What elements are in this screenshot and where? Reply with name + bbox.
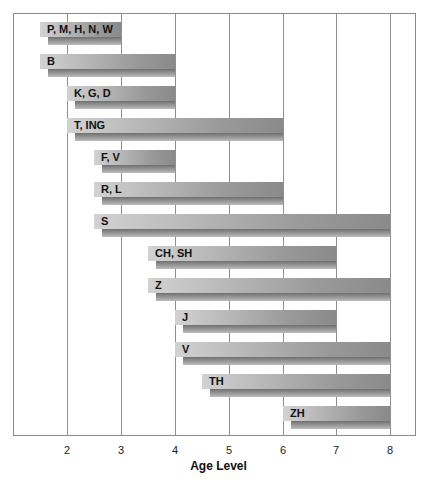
bar-label: T, ING bbox=[74, 118, 105, 133]
bar-label: F, V bbox=[101, 150, 120, 165]
x-tick-label: 3 bbox=[111, 444, 131, 456]
range-bar bbox=[94, 182, 283, 197]
range-bar bbox=[175, 342, 390, 357]
bar-shadow bbox=[291, 421, 390, 429]
bar-shadow bbox=[183, 325, 336, 333]
bar-shadow bbox=[183, 357, 390, 365]
x-axis-label: Age Level bbox=[0, 459, 427, 473]
x-tick-label: 5 bbox=[219, 444, 239, 456]
x-tick-label: 4 bbox=[165, 444, 185, 456]
range-bar bbox=[94, 214, 390, 229]
range-bar bbox=[175, 310, 336, 325]
bar-label: ZH bbox=[290, 406, 305, 421]
bar-label: Z bbox=[155, 278, 162, 293]
bar-label: J bbox=[182, 310, 188, 325]
bar-label: B bbox=[47, 54, 55, 69]
x-tick-label: 6 bbox=[273, 444, 293, 456]
bar-label: TH bbox=[209, 374, 224, 389]
bar-label: P, M, H, N, W bbox=[47, 22, 113, 37]
bar-shadow bbox=[75, 101, 175, 109]
bar-shadow bbox=[48, 69, 175, 77]
bar-shadow bbox=[210, 389, 390, 397]
x-tick-label: 2 bbox=[57, 444, 77, 456]
bar-label: K, G, D bbox=[74, 86, 111, 101]
bar-label: R, L bbox=[101, 182, 122, 197]
bar-shadow bbox=[102, 197, 283, 205]
bar-label: CH, SH bbox=[155, 246, 192, 261]
bar-shadow bbox=[156, 261, 336, 269]
bar-shadow bbox=[102, 165, 175, 173]
bar-shadow bbox=[48, 37, 121, 45]
bar-shadow bbox=[102, 229, 390, 237]
x-tick-label: 8 bbox=[380, 444, 400, 456]
bar-shadow bbox=[75, 133, 283, 141]
bar-label: V bbox=[182, 342, 189, 357]
x-tick-label: 7 bbox=[326, 444, 346, 456]
range-bar bbox=[40, 54, 175, 69]
bar-shadow bbox=[156, 293, 390, 301]
gridline bbox=[390, 13, 391, 436]
bar-label: S bbox=[101, 214, 108, 229]
range-bar bbox=[202, 374, 390, 389]
range-bar bbox=[148, 278, 390, 293]
